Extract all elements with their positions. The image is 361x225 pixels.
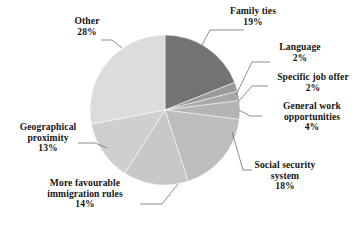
pie-label-immigration-rules: More favourable immigration rules 14% xyxy=(27,178,143,210)
pie-label-family-ties: Family ties 19% xyxy=(205,6,301,27)
leader-line-specific-job-offer xyxy=(238,86,268,102)
pie-label-social-security-value: 18% xyxy=(240,181,330,192)
pie-label-specific-job-offer: Specific job offer 2% xyxy=(265,72,361,93)
pie-label-language-value: 2% xyxy=(264,53,336,64)
pie-label-language: Language 2% xyxy=(264,42,336,63)
pie-label-other-value: 28% xyxy=(60,27,114,38)
pie-slice xyxy=(90,35,165,124)
pie-chart-figure: Family ties 19% Language 2% Specific job… xyxy=(0,0,361,225)
leader-line-general-work xyxy=(239,110,262,116)
pie-label-social-security-system: Social security system 18% xyxy=(240,160,330,192)
pie-label-other: Other 28% xyxy=(60,16,114,37)
pie-slice-group xyxy=(90,35,240,185)
leader-line-immigration-rules xyxy=(140,184,178,204)
pie-label-geographical-proximity: Geographical proximity 13% xyxy=(6,122,90,154)
pie-label-general-work-opportunities: General work opportunities 4% xyxy=(263,101,361,133)
pie-label-family-ties-value: 19% xyxy=(205,17,301,28)
pie-label-specific-job-offer-value: 2% xyxy=(265,83,361,94)
pie-label-immigration-rules-value: 14% xyxy=(27,199,143,210)
pie-label-general-work-value: 4% xyxy=(263,122,361,133)
pie-label-geographical-value: 13% xyxy=(6,143,90,154)
leader-line-other xyxy=(101,40,122,48)
